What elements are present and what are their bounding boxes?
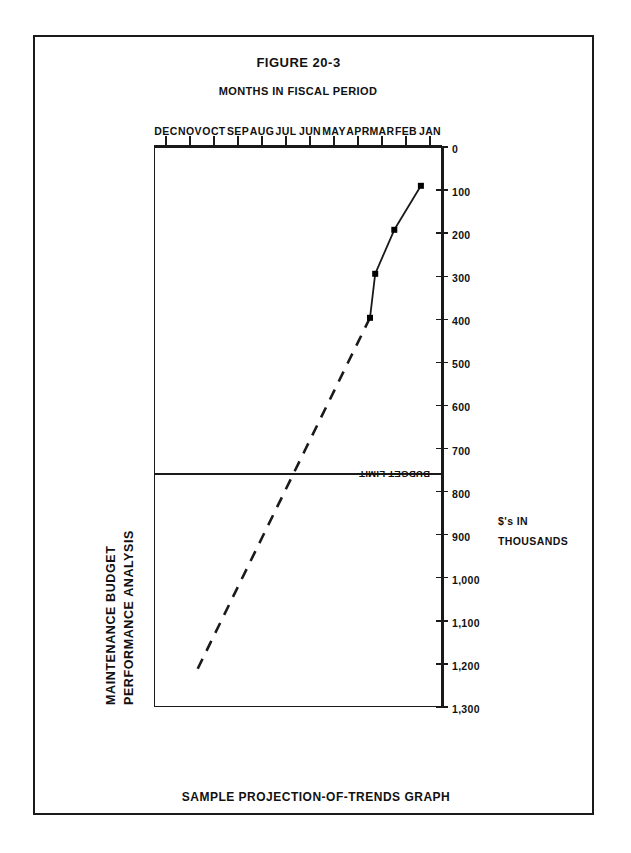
value-axis-tick-label: 900: [452, 530, 470, 542]
month-axis-tick-label: SEP: [226, 125, 248, 137]
value-axis-tick: [436, 706, 448, 707]
value-axis-tick-label: 400: [452, 315, 470, 327]
month-axis-tick-label: JAN: [418, 125, 440, 137]
figure-number: FIGURE 20-3: [154, 55, 442, 71]
chart-title: MAINTENANCE BUDGET PERFORMANCE ANALYSIS: [102, 405, 138, 705]
month-axis-tick-label: FEB: [394, 125, 416, 137]
month-axis-tick: [309, 136, 310, 147]
chart-title-line-2: PERFORMANCE ANALYSIS: [120, 405, 138, 705]
month-axis-tick: [405, 136, 406, 147]
x-axis-caption-text: MONTHS IN FISCAL PERIOD: [218, 84, 377, 96]
month-axis-tick-label: JUN: [298, 125, 320, 137]
chart-title-line-1: MAINTENANCE BUDGET: [102, 405, 120, 705]
value-axis-tick: [436, 404, 448, 405]
data-point-jan: [417, 182, 423, 188]
value-axis-tick-label: 1,000: [452, 573, 480, 585]
value-axis-tick: [436, 361, 448, 362]
plot-area: [154, 147, 442, 707]
value-axis-tick: [436, 534, 448, 535]
value-axis-line: [442, 147, 444, 707]
value-axis-tick: [436, 189, 448, 190]
series-actual: [370, 185, 421, 317]
figure-stage: MAINTENANCE BUDGET PERFORMANCE ANALYSIS …: [66, 57, 566, 797]
month-axis-tick: [333, 136, 334, 147]
month-axis-tick: [429, 136, 430, 147]
month-axis-tick: [165, 136, 166, 147]
y-axis-caption: $'s IN THOUSANDS: [498, 512, 568, 552]
y-axis-caption-line-2: THOUSANDS: [498, 531, 568, 551]
value-axis-tick-label: 1,200: [452, 659, 480, 671]
month-axis-tick-label: NOV: [178, 125, 202, 137]
value-axis-tick-label: 1,300: [452, 703, 480, 715]
value-axis-tick-label: 200: [452, 229, 470, 241]
month-axis-tick: [189, 136, 190, 147]
value-axis-tick: [436, 275, 448, 276]
budget-limit-label: BUDGET LIMIT: [358, 469, 429, 480]
value-axis-tick: [436, 447, 448, 448]
value-axis-tick-label: 700: [452, 444, 470, 456]
y-axis-caption-line-1: $'s IN: [498, 512, 568, 532]
month-axis-tick: [381, 136, 382, 147]
month-axis-tick-label: MAY: [322, 125, 346, 137]
month-axis-tick-label: JUL: [275, 125, 296, 137]
data-point-feb: [391, 226, 397, 232]
value-axis-tick: [436, 490, 448, 491]
figure-number-text: FIGURE 20-3: [255, 55, 339, 70]
month-axis-tick-label: DEC: [154, 125, 177, 137]
month-axis-tick: [285, 136, 286, 147]
x-axis-caption: MONTHS IN FISCAL PERIOD: [154, 83, 442, 99]
series-projected-trend: [197, 317, 370, 669]
month-axis-tick: [213, 136, 214, 147]
value-axis-tick-label: 0: [452, 143, 458, 155]
month-axis-tick: [261, 136, 262, 147]
value-axis-tick-label: 600: [452, 401, 470, 413]
month-axis-tick: [357, 136, 358, 147]
value-axis-tick: [436, 577, 448, 578]
value-axis-tick: [436, 620, 448, 621]
month-axis-tick-label: APR: [346, 125, 369, 137]
value-axis-tick-label: 1,100: [452, 616, 480, 628]
data-point-mar: [372, 270, 378, 276]
value-axis-tick-label: 800: [452, 487, 470, 499]
month-axis-tick-label: OCT: [202, 125, 225, 137]
month-axis-tick-label: AUG: [249, 125, 274, 137]
figure-caption-text: SAMPLE PROJECTION-OF-TRENDS GRAPH: [181, 790, 450, 804]
value-axis-tick: [436, 318, 448, 319]
value-axis-tick-label: 300: [452, 272, 470, 284]
month-axis-tick: [237, 136, 238, 147]
value-axis-tick-label: 100: [452, 186, 470, 198]
data-point-apr: [367, 314, 373, 320]
value-axis-tick: [436, 232, 448, 233]
value-axis-tick: [436, 663, 448, 664]
value-axis-tick-label: 500: [452, 358, 470, 370]
month-axis-tick-label: MAR: [369, 125, 394, 137]
month-axis-line: [154, 145, 442, 147]
